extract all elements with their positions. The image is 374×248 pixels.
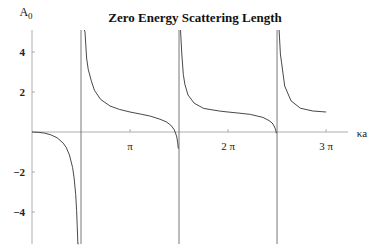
- asymptote-lines: [81, 30, 277, 244]
- y-tick-label: 2: [20, 86, 26, 98]
- x-axis-label: κa: [357, 127, 368, 139]
- scattering-length-chart: Zero Energy Scattering Length A0 π2 π3 π…: [0, 0, 374, 248]
- y-axis-label: A0: [19, 5, 33, 21]
- curve-branch-2: [84, 30, 178, 149]
- x-tick-label: 2 π: [221, 140, 235, 152]
- y-tick-label: −4: [13, 206, 25, 218]
- chart-title: Zero Energy Scattering Length: [108, 10, 282, 25]
- y-tick-label: −2: [13, 166, 25, 178]
- x-tick-label: 3 π: [319, 140, 333, 152]
- curve-branch-1: [32, 132, 79, 244]
- y-tick-label: 4: [20, 46, 26, 58]
- curve-branch-5: [279, 30, 326, 112]
- x-ticks: π2 π3 π: [127, 129, 333, 152]
- x-tick-label: π: [127, 140, 133, 152]
- curve-branch-3: [181, 30, 277, 133]
- axes: [32, 30, 348, 244]
